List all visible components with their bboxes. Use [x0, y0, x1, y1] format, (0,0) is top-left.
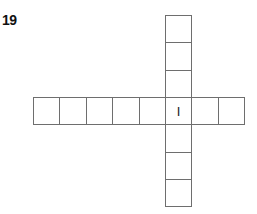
crossword-cell[interactable]: [139, 97, 166, 125]
question-number: 19: [2, 12, 17, 28]
crossword-cell[interactable]: [86, 97, 113, 125]
crossword-cell[interactable]: [165, 42, 192, 71]
crossword-cell[interactable]: [165, 124, 192, 153]
crossword-cell[interactable]: [165, 152, 192, 180]
crossword-cell[interactable]: [191, 97, 219, 125]
given-letter: I: [177, 104, 181, 119]
crossword-cell[interactable]: [112, 97, 140, 125]
crossword-cell[interactable]: [33, 97, 60, 125]
crossword-cell[interactable]: [165, 179, 192, 207]
crossword-cell[interactable]: I: [165, 97, 192, 125]
crossword-cell[interactable]: [218, 97, 245, 125]
crossword-cell[interactable]: [165, 70, 192, 98]
crossword-cell[interactable]: [59, 97, 87, 125]
crossword-cell[interactable]: [165, 15, 192, 43]
